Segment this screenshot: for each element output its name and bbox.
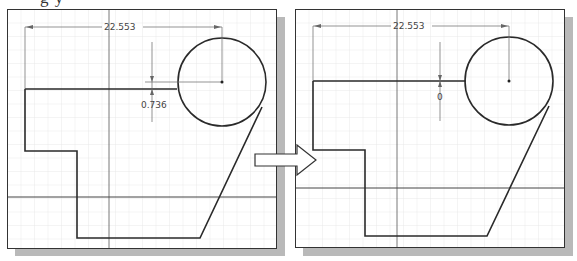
circle-center-point [508,80,511,83]
cropped-caption-text: g y [40,0,64,8]
left-sketch-panel: 22.553 0.736 [7,9,277,249]
horizontal-dimension-label: 22.553 [104,22,136,32]
left-sketch-canvas: 22.553 0.736 [7,9,277,249]
circle-center-point [221,81,224,84]
vertical-dimension-label: 0.736 [141,100,167,110]
right-sketch-panel: 22.553 0 [295,9,565,248]
horizontal-dimension-label: 22.553 [393,21,425,31]
right-sketch-canvas: 22.553 0 [295,9,565,248]
vertical-dimension-label: 0 [437,92,443,102]
